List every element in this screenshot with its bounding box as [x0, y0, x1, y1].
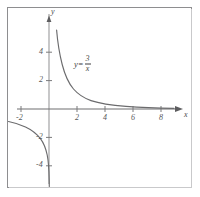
- equation-fraction: 3 x: [85, 55, 91, 73]
- y-tick-label-2: 2: [39, 76, 43, 84]
- plot-area: -2 2 4 6 8 4 2 -2 -4 y x y= 3 x: [8, 8, 191, 187]
- fraction-numerator: 3: [85, 55, 91, 64]
- x-tick-label-6: 6: [131, 114, 135, 122]
- fraction-denominator: x: [85, 64, 91, 73]
- x-tick-label-8: 8: [159, 114, 163, 122]
- x-axis-arrowhead: [175, 106, 183, 112]
- curve-branch-negative: [9, 122, 50, 187]
- y-axis-arrowhead: [47, 16, 52, 23]
- x-tick-label-4: 4: [103, 114, 107, 122]
- x-axis-label: x: [184, 111, 188, 119]
- y-axis-label: y: [51, 8, 55, 16]
- equation-lhs: y=: [74, 60, 84, 69]
- y-tick-label-minus4: -4: [36, 161, 43, 169]
- figure-frame: -2 2 4 6 8 4 2 -2 -4 y x y= 3 x: [7, 7, 192, 188]
- figure-container: -2 2 4 6 8 4 2 -2 -4 y x y= 3 x: [0, 0, 200, 197]
- x-tick-label-minus2: -2: [16, 114, 23, 122]
- y-tick-label-minus2: -2: [36, 133, 43, 141]
- y-tick-label-4: 4: [39, 48, 43, 56]
- x-tick-label-2: 2: [75, 114, 79, 122]
- curve-equation-label: y= 3 x: [74, 55, 91, 73]
